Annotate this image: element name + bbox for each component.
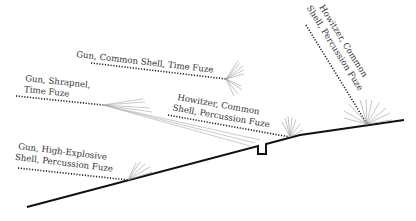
artillery-fire-diagram: Gun, Common Shell, Time Fuze Gun, Shrapn… — [0, 0, 416, 221]
label-howitzer-common-percussion-steep: Howitzer, Common Shell, Percussion Fuze — [305, 0, 375, 92]
label-line: Gun, Common Shell, Time Fuze — [76, 49, 214, 75]
burst-percussion-ground-1 — [282, 116, 303, 137]
burst-time-fuze-airburst — [226, 61, 244, 96]
label-gun-shrapnel-time: Gun, Shrapnel, Time Fuze — [24, 73, 94, 101]
burst-percussion-ground-2 — [344, 99, 392, 124]
label-gun-common-time: Gun, Common Shell, Time Fuze — [76, 49, 214, 75]
